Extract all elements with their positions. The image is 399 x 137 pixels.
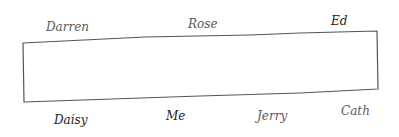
seat-label-darren: Darren [46, 21, 89, 33]
seat-label-cath: Cath [341, 105, 370, 117]
seat-label-ed: Ed [331, 15, 347, 27]
seat-label-rose: Rose [188, 18, 218, 30]
seat-label-jerry: Jerry [257, 110, 287, 122]
seating-diagram: Darren Rose Ed Daisy Me Jerry Cath [0, 0, 399, 137]
seat-label-daisy: Daisy [54, 114, 88, 126]
seat-label-me: Me [166, 110, 185, 122]
